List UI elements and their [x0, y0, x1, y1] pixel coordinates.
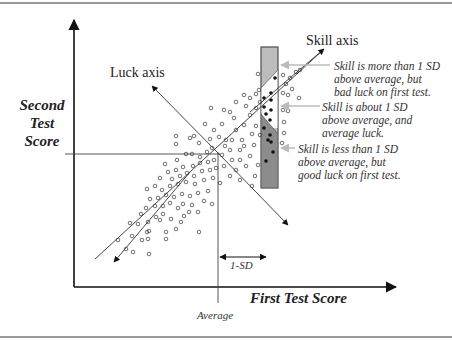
x-axis-label: First Test Score	[250, 290, 347, 307]
sd-label: 1-SD	[230, 259, 253, 271]
average-label: Average	[197, 309, 233, 321]
skill-axis-line	[95, 50, 323, 259]
y-label-line: Second	[14, 96, 70, 114]
y-axis-label: Second Test Score	[14, 96, 70, 150]
annotation-average-luck: Skill is about 1 SD above average, and a…	[322, 101, 412, 140]
luck-axis-label: Luck axis	[110, 65, 165, 81]
skill-axis-label: Skill axis	[306, 33, 359, 49]
luck-axis-arrow-a	[152, 86, 220, 155]
skill-axis-arrow-a	[114, 172, 190, 262]
skill-range-box	[261, 47, 278, 188]
annotation-good-luck: Skill is less than 1 SD above average, b…	[298, 143, 401, 182]
annotation-bad-luck: Skill is more than 1 SD above average, b…	[334, 60, 440, 99]
y-label-line: Test	[14, 114, 70, 132]
y-label-line: Score	[14, 132, 70, 150]
